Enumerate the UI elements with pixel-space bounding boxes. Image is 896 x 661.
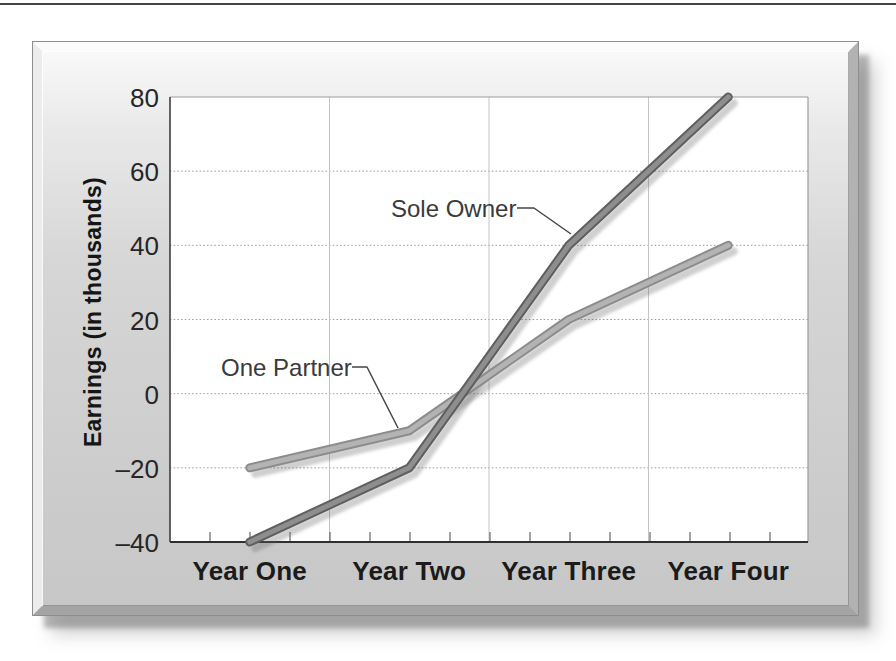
- y-tick-label: 40: [97, 233, 159, 259]
- x-category-label: Year Four: [638, 558, 818, 584]
- x-category-label: Year Two: [319, 558, 499, 584]
- panel-surface: [42, 51, 849, 606]
- y-tick-label: 0: [97, 382, 159, 408]
- page-top-rule: [0, 3, 896, 5]
- page: Earnings (in thousands) 806040200–20–40 …: [0, 0, 896, 661]
- y-tick-label: –20: [97, 456, 159, 482]
- annotation-one-partner: One Partner: [221, 356, 352, 380]
- y-tick-label: 20: [97, 308, 159, 334]
- y-tick-label: –40: [97, 530, 159, 556]
- y-tick-label: 80: [97, 85, 159, 111]
- x-category-label: Year Three: [479, 558, 659, 584]
- x-category-label: Year One: [160, 558, 340, 584]
- annotation-sole-owner: Sole Owner: [391, 197, 516, 221]
- y-tick-label: 60: [97, 159, 159, 185]
